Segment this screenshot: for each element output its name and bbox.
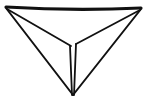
tetrahedron-line-drawing — [0, 0, 147, 103]
figure-canvas — [0, 0, 147, 103]
